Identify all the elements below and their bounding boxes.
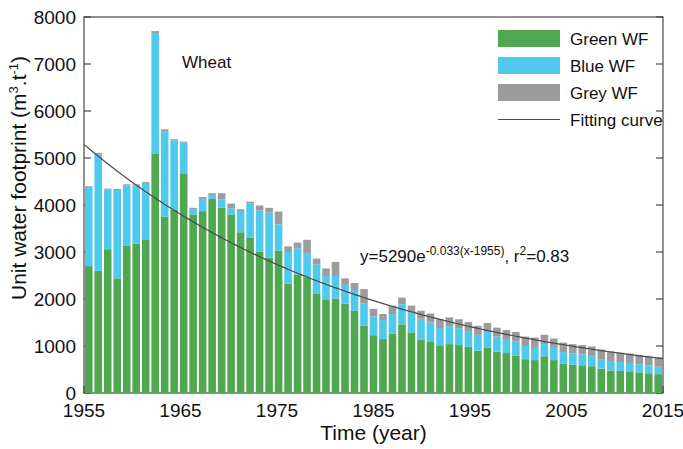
bar-segment (256, 252, 264, 393)
bar-segment (275, 251, 283, 393)
bar-segment (503, 339, 511, 353)
bar-segment (180, 142, 188, 143)
y-axis-title: Unit water footprint (m3.t-1) (6, 56, 30, 300)
bar-segment (199, 211, 207, 393)
bar-segment (607, 361, 615, 370)
bar-segment (569, 365, 577, 393)
bar-segment (237, 209, 245, 211)
bar-segment (645, 365, 653, 373)
x-axis-title: Time (year) (320, 421, 427, 444)
y-axis-tick-label: 3000 (34, 242, 76, 263)
bar-segment (123, 245, 131, 393)
y-axis-tick-label: 8000 (34, 7, 76, 28)
bar-segment (465, 331, 473, 347)
bar-segment (313, 264, 321, 293)
legend-item[interactable]: Fitting curve (498, 111, 663, 130)
bar-segment (132, 185, 140, 243)
equation-comma: , r (504, 247, 519, 266)
bar-segment (189, 210, 197, 215)
bar-segment (170, 139, 178, 140)
bar-segment (161, 129, 169, 131)
bar-segment (180, 142, 188, 173)
bar-segment (246, 238, 254, 393)
y-axis-title-sup-minus1: -1 (6, 63, 21, 75)
bar-segment (94, 154, 102, 271)
x-axis-tick-label: 2005 (545, 400, 587, 421)
legend-item[interactable]: Grey WF (498, 84, 638, 103)
bar-segment (522, 359, 530, 393)
bar-segment (579, 345, 587, 354)
bar-segment (199, 197, 207, 199)
legend-label: Grey WF (570, 84, 638, 103)
bar-segment (303, 240, 311, 253)
legend-item[interactable]: Blue WF (498, 57, 635, 76)
bar-segment (607, 352, 615, 361)
y-axis-tick-label: 1000 (34, 336, 76, 357)
bar-segment (654, 374, 662, 393)
x-axis-tick-label: 1985 (352, 400, 394, 421)
bar-segment (616, 371, 624, 393)
bar-segment (332, 299, 340, 393)
bar-segment (85, 187, 93, 266)
bar-segment (123, 185, 131, 245)
bar-segment (398, 304, 406, 324)
bar-segment (123, 184, 131, 185)
bar-segment (275, 224, 283, 250)
bar-segment (237, 232, 245, 393)
bar-segment (626, 363, 634, 371)
bar-segment (189, 208, 197, 210)
bar-segment (541, 356, 549, 393)
equation-exponent: -0.033(x-1955) (426, 244, 505, 258)
legend-swatch (498, 57, 560, 74)
bar-segment (227, 204, 235, 209)
bar-segment (598, 359, 606, 368)
bar-segment (341, 285, 349, 304)
bar-segment (436, 328, 444, 346)
bar-segment (104, 189, 112, 190)
bar-segment (151, 153, 159, 393)
bar-segment (654, 367, 662, 375)
bar-segment (607, 370, 615, 393)
bar-segment (645, 373, 653, 393)
bar-segment (474, 351, 482, 393)
y-axis-tick-label: 5000 (34, 148, 76, 169)
bar-segment (113, 278, 121, 393)
bar-segment (560, 352, 568, 364)
bar-segment (465, 347, 473, 393)
bar-segment (579, 354, 587, 365)
bar-segment (332, 262, 340, 276)
bar-segment (256, 211, 264, 252)
bar-segment (265, 258, 273, 393)
y-axis-tick-label: 6000 (34, 101, 76, 122)
bar-segment (493, 352, 501, 393)
bar-segment (218, 199, 226, 207)
bar-segment (635, 364, 643, 372)
bar-segment (104, 189, 112, 249)
bar-segment (94, 271, 102, 393)
legend-label: Fitting curve (570, 111, 663, 130)
bar-segment (284, 246, 292, 252)
bar-segment (237, 211, 245, 232)
bar-segment (161, 217, 169, 393)
bar-segment (104, 249, 112, 393)
bar-segment (484, 348, 492, 393)
bar-segment (294, 248, 302, 274)
bar-segment (180, 174, 188, 393)
bar-segment (560, 364, 568, 393)
bar-segment (484, 332, 492, 348)
bar-segment (588, 346, 596, 355)
equation-lhs: y=5290e (360, 247, 426, 266)
bar-segment (322, 268, 330, 276)
bar-segment (313, 293, 321, 393)
bar-segment (85, 186, 93, 187)
legend-item[interactable]: Green WF (498, 30, 648, 49)
y-axis-title-sup-3: 3 (6, 86, 21, 93)
bar-segment (370, 316, 378, 335)
bar-segment (512, 341, 520, 355)
bar-segment (389, 334, 397, 393)
legend-label: Blue WF (570, 57, 635, 76)
bar-segment (474, 326, 482, 335)
bar-segment (142, 239, 150, 393)
chart-figure: 0100020003000400050006000700080001955196… (0, 0, 683, 449)
bar-segment (370, 335, 378, 393)
